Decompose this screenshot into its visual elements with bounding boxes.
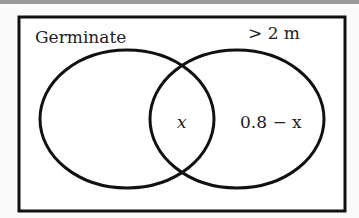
region-intersection-label: x xyxy=(177,112,187,132)
venn-diagram: Germinate > 2 m x 0.8 − x xyxy=(0,0,359,218)
set-label-germinate: Germinate xyxy=(35,27,126,47)
region-right-only-label: 0.8 − x xyxy=(240,112,302,132)
set-label-over-2m: > 2 m xyxy=(248,23,300,43)
